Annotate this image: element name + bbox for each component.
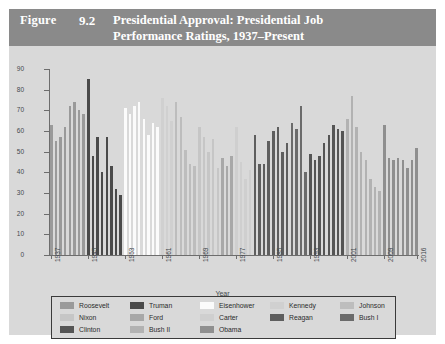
x-tick (273, 255, 274, 259)
figure-number: 9.2 (79, 13, 95, 29)
bar (133, 106, 136, 255)
bar (267, 141, 270, 255)
bar (295, 129, 298, 255)
legend-label: Obama (219, 325, 241, 334)
x-tick-label: 1961 (165, 248, 172, 262)
bars-area (49, 69, 419, 255)
x-tick (199, 255, 200, 259)
legend-swatch (200, 302, 214, 309)
bar (254, 135, 257, 255)
bar (147, 135, 150, 255)
x-tick-label: 1953 (128, 248, 135, 262)
bar (286, 143, 289, 255)
bar (244, 179, 247, 255)
y-tick-label: 0 (0, 251, 24, 258)
bar (300, 106, 303, 255)
bar (59, 137, 62, 255)
x-tick (310, 255, 311, 259)
bar (277, 127, 280, 255)
bar (92, 156, 95, 255)
figure-title-line-2: Performance Ratings, 1937–Present (113, 28, 429, 44)
bar (337, 129, 340, 255)
bar (291, 123, 294, 255)
bar (82, 114, 85, 255)
y-tick (44, 131, 49, 132)
bar (397, 158, 400, 255)
bar (212, 139, 215, 255)
legend-swatch (60, 302, 74, 309)
x-tick (236, 255, 237, 259)
bar (328, 135, 331, 255)
legend-label: Roosevelt (79, 301, 109, 310)
legend-swatch (340, 314, 354, 321)
y-tick (44, 90, 49, 91)
bar (78, 110, 81, 255)
y-tick-label: 50 (0, 148, 24, 155)
x-tick (384, 255, 385, 259)
bar (406, 168, 409, 255)
bar (138, 102, 141, 255)
bar (272, 131, 275, 255)
x-tick-label: 1993 (313, 248, 320, 262)
legend-label: Johnson (359, 301, 385, 310)
y-tick-label: 90 (0, 65, 24, 72)
bar (388, 158, 391, 255)
figure-header: Figure 9.2 Presidential Approval: Presid… (9, 9, 436, 46)
x-tick-label: 2001 (350, 248, 357, 262)
bar (87, 79, 90, 255)
y-tick (44, 69, 49, 70)
x-tick-label: 2016 (420, 248, 427, 262)
bar (263, 164, 266, 255)
figure-title-line-1: Presidential Approval: Presidential Job (113, 12, 429, 28)
bar (360, 152, 363, 255)
bar (402, 160, 405, 255)
y-tick (44, 152, 49, 153)
bar (101, 172, 104, 255)
legend-swatch (130, 302, 144, 309)
bar (392, 160, 395, 255)
bar (64, 127, 67, 255)
legend-swatch (340, 302, 354, 309)
bar (180, 117, 183, 255)
bar (161, 98, 164, 255)
x-tick-label: 1985 (276, 248, 283, 262)
y-tick (44, 193, 49, 194)
x-tick-label: 2009 (387, 248, 394, 262)
bar (124, 108, 127, 255)
bar (166, 106, 169, 255)
bar (309, 154, 312, 255)
bar (73, 102, 76, 255)
bar (217, 168, 220, 255)
bar (318, 156, 321, 255)
bar (281, 152, 284, 255)
bar (189, 164, 192, 255)
legend-swatch (200, 326, 214, 333)
x-tick (125, 255, 126, 259)
x-tick (88, 255, 89, 259)
x-tick-label: 1969 (202, 248, 209, 262)
y-tick (44, 214, 49, 215)
x-tick (162, 255, 163, 259)
bar (198, 127, 201, 255)
bar (170, 121, 173, 255)
legend-swatch (130, 326, 144, 333)
legend-swatch (270, 302, 284, 309)
bar (355, 127, 358, 255)
bar (193, 166, 196, 255)
bar (50, 125, 53, 255)
bar (415, 148, 418, 255)
y-tick-label: 20 (0, 210, 24, 217)
y-tick-label: 70 (0, 106, 24, 113)
legend-label: Bush I (359, 313, 378, 322)
bar (115, 189, 118, 255)
chart-legend: RooseveltTrumanEisenhowerKennedyJohnsonN… (51, 296, 396, 339)
bar (411, 160, 414, 255)
bar (106, 137, 109, 255)
bar (323, 143, 326, 255)
x-axis-line (49, 255, 419, 256)
bar (152, 123, 155, 255)
bar (383, 125, 386, 255)
y-tick (44, 234, 49, 235)
bar (55, 141, 58, 255)
legend-swatch (60, 314, 74, 321)
